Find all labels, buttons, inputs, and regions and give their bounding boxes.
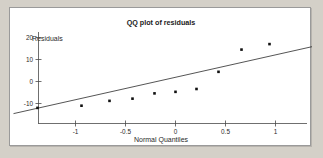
screenshot-root: QQ plot of residuals Residuals Normal Qu… <box>0 0 323 158</box>
y-tick-label: -10 <box>24 100 34 107</box>
y-tick-label: 10 <box>26 56 34 63</box>
data-point <box>195 88 198 91</box>
data-point <box>268 43 271 46</box>
x-tick-label: 0.5 <box>221 128 230 135</box>
y-tick-label: 0 <box>29 78 33 85</box>
scatter-points <box>36 32 312 109</box>
data-point <box>36 107 39 110</box>
data-point <box>217 71 220 74</box>
data-point <box>240 48 243 51</box>
x-axis-label: Normal Quantiles <box>134 136 189 144</box>
x-tick-group: -1 -0.5 0 0.5 1 <box>73 121 278 136</box>
x-tick-label: 0 <box>174 128 178 135</box>
y-tick-label: 20 <box>26 34 34 41</box>
data-point <box>108 100 111 103</box>
x-tick-label: -1 <box>73 128 79 135</box>
data-point <box>153 92 156 95</box>
data-point <box>80 104 83 107</box>
x-tick-label: 1 <box>274 128 278 135</box>
y-axis-label: Residuals <box>32 35 63 42</box>
reference-line <box>14 44 313 114</box>
data-point <box>174 91 177 94</box>
chart-title: QQ plot of residuals <box>127 18 196 27</box>
x-tick-label: -0.5 <box>120 128 131 135</box>
chart-panel: QQ plot of residuals Residuals Normal Qu… <box>9 7 311 146</box>
qq-plot-figure: QQ plot of residuals Residuals Normal Qu… <box>10 8 312 147</box>
data-point <box>131 97 134 100</box>
